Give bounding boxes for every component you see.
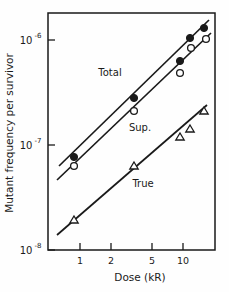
chart-figure: 1 2 5 10 10 -6 10 -7 10 -8 Dose (kR) Mut… bbox=[0, 0, 229, 292]
data-point-total bbox=[70, 153, 77, 160]
data-point-sup bbox=[203, 36, 210, 43]
data-point-true bbox=[176, 133, 184, 140]
series-sup-markers bbox=[71, 36, 210, 170]
data-point-true bbox=[186, 125, 194, 132]
data-point-total bbox=[186, 34, 193, 41]
series-total-markers bbox=[70, 24, 207, 160]
x-tick-label-10: 10 bbox=[177, 255, 189, 266]
x-tick-label-5: 5 bbox=[149, 255, 155, 266]
data-point-sup bbox=[177, 70, 184, 77]
x-tick-label-1: 1 bbox=[77, 255, 83, 266]
data-point-sup bbox=[188, 45, 195, 52]
x-axis-title: Dose (kR) bbox=[114, 271, 165, 283]
fit-line-sup bbox=[57, 33, 211, 180]
series-annotations: Total Sup. True bbox=[97, 67, 153, 189]
series-label-sup: Sup. bbox=[129, 122, 151, 133]
series-label-total: Total bbox=[97, 67, 121, 78]
data-point-sup bbox=[71, 163, 78, 170]
y-axis-ticks bbox=[48, 40, 55, 250]
y-tick-label-1e-8-exponent: -8 bbox=[35, 242, 42, 250]
y-tick-labels: 10 -6 10 -7 10 -8 bbox=[20, 32, 42, 256]
x-axis-ticks bbox=[80, 243, 183, 250]
log-log-scatter-plot: 1 2 5 10 10 -6 10 -7 10 -8 Dose (kR) Mut… bbox=[0, 0, 229, 292]
y-tick-label-1e-8-base: 10 bbox=[20, 245, 33, 256]
y-tick-label-1e-7-base: 10 bbox=[20, 140, 33, 151]
y-axis-title: Mutant frequency per survivor bbox=[3, 52, 15, 212]
data-point-total bbox=[176, 57, 183, 64]
data-point-total bbox=[200, 24, 207, 31]
data-point-total bbox=[130, 94, 137, 101]
fit-line-total bbox=[59, 20, 209, 166]
series-label-true: True bbox=[131, 178, 153, 189]
x-tick-labels: 1 2 5 10 bbox=[77, 255, 189, 266]
data-point-sup bbox=[131, 108, 138, 115]
y-tick-label-1e-6-base: 10 bbox=[20, 35, 33, 46]
x-tick-label-2: 2 bbox=[108, 255, 114, 266]
y-tick-label-1e-7-exponent: -7 bbox=[35, 137, 42, 145]
y-tick-label-1e-6-exponent: -6 bbox=[35, 32, 43, 40]
